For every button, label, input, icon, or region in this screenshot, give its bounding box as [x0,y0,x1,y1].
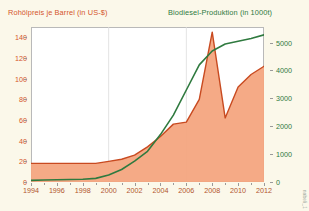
x-axis-tick-mark [135,183,136,186]
x-axis-tick-label: 2012 [256,186,272,195]
x-axis-tick-mark [199,183,200,185]
right-axis: 010002000300040005000 [270,27,306,182]
x-axis-tick-mark [251,183,252,185]
chart-container: Rohölpreis je Barrel (in US-$) Biodiesel… [0,0,309,211]
y-axis-tick-mark [24,161,27,162]
y-axis-tick-mark [24,182,27,183]
plot-wrapper [31,27,264,182]
y2-axis-tick-label: 3000 [276,94,292,103]
y2-axis-tick-label: 4000 [276,66,292,75]
y2-axis-tick-mark [270,43,273,44]
x-axis-tick-label: 2006 [178,186,194,195]
y2-axis-tick-mark [270,154,273,155]
x-axis-tick-mark [238,183,239,186]
y2-axis-tick-label: 2000 [276,122,292,131]
x-axis-tick-mark [70,183,71,185]
x-axis-tick-label: 2008 [204,186,220,195]
x-axis-tick-mark [225,183,226,185]
y-axis-tick-mark [24,141,27,142]
x-axis-tick-mark [160,183,161,186]
x-axis-tick-label: 2000 [101,186,117,195]
x-axis-tick-mark [122,183,123,185]
x-axis-tick-mark [186,183,187,186]
y-axis-tick-mark [24,37,27,38]
y-axis-tick-mark [24,58,27,59]
x-axis-tick-label: 2010 [230,186,246,195]
x-axis-tick-label: 1994 [23,186,39,195]
y-axis-tick-mark [24,120,27,121]
left-axis: 020406080100120140 [0,27,27,182]
chart-title-left-axis: Rohölpreis je Barrel (in US-$) [8,8,108,17]
y2-axis-tick-label: 0 [276,178,280,187]
y2-axis-tick-mark [270,98,273,99]
x-axis-tick-mark [148,183,149,185]
chart-plot-svg [31,27,264,182]
watermark-label: nabeli_1 [302,190,307,209]
y2-axis-tick-mark [270,70,273,71]
x-axis-tick-label: 2004 [152,186,168,195]
x-axis-tick-label: 1998 [75,186,91,195]
y2-axis-tick-label: 5000 [276,38,292,47]
y2-axis-tick-mark [270,182,273,183]
x-axis-tick-mark [212,183,213,186]
x-axis-tick-mark [173,183,174,185]
chart-title-right-axis: Biodiesel-Produktion (in 1000t) [168,8,272,17]
x-axis-tick-mark [44,183,45,185]
y2-axis-tick-label: 1000 [276,150,292,159]
x-axis-tick-mark [109,183,110,186]
y2-axis-tick-mark [270,126,273,127]
x-axis-tick-mark [264,183,265,186]
x-axis: 1994199619982000200220042006200820102012 [31,186,264,198]
x-axis-tick-mark [57,183,58,186]
x-axis-tick-label: 1996 [49,186,65,195]
x-axis-tick-mark [96,183,97,185]
y-axis-tick-mark [24,99,27,100]
x-axis-tick-mark [83,183,84,186]
x-axis-tick-mark [31,183,32,186]
x-axis-tick-label: 2002 [127,186,143,195]
y-axis-tick-mark [24,79,27,80]
